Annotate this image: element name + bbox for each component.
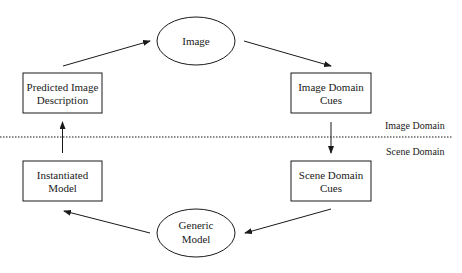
node-generic-line1: Generic <box>179 219 214 231</box>
node-scene-cues-line2: Cues <box>320 182 342 194</box>
node-predicted-image-description: Predicted Image Description <box>23 73 102 113</box>
node-generic-model: Generic Model <box>157 209 235 257</box>
node-predicted-line1: Predicted Image <box>27 81 99 93</box>
arrow-image-to-image-cues <box>244 41 331 66</box>
node-instantiated-line1: Instantiated <box>37 169 89 181</box>
node-instantiated-model: Instantiated Model <box>23 161 102 201</box>
diagram-canvas: Image Predicted Image Description Image … <box>0 0 462 273</box>
image-domain-label: Image Domain <box>385 120 445 131</box>
scene-domain-label: Scene Domain <box>386 146 445 157</box>
node-image-cues-line1: Image Domain <box>298 81 364 93</box>
node-predicted-line2: Description <box>37 94 89 106</box>
node-image-cues-line2: Cues <box>320 94 342 106</box>
node-generic-line2: Model <box>182 233 211 245</box>
node-image: Image <box>157 17 235 65</box>
arrow-scene-cues-to-generic <box>245 209 331 233</box>
node-scene-domain-cues: Scene Domain Cues <box>291 161 371 201</box>
node-image-domain-cues: Image Domain Cues <box>291 73 371 113</box>
arrow-generic-to-instantiated <box>64 211 150 233</box>
node-instantiated-line2: Model <box>48 182 77 194</box>
arrow-predicted-to-image <box>63 41 150 66</box>
node-image-label: Image <box>182 35 210 47</box>
node-scene-cues-line1: Scene Domain <box>299 169 364 181</box>
